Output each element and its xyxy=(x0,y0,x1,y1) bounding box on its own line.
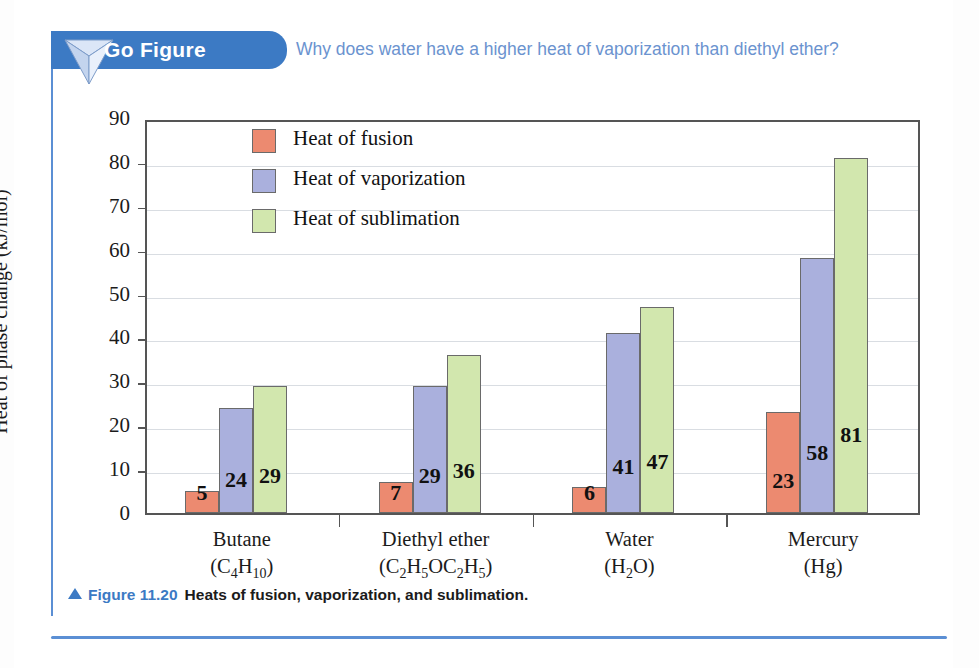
legend-label: Heat of fusion xyxy=(293,126,413,151)
bar-value-label: 36 xyxy=(448,458,480,484)
x-axis-category-name: Water xyxy=(533,526,727,553)
y-axis-tick xyxy=(138,252,145,254)
bar-value-label: 24 xyxy=(220,467,252,493)
legend-swatch xyxy=(252,129,276,153)
y-axis-tick xyxy=(138,471,145,473)
y-axis-tick xyxy=(138,339,145,341)
y-axis-tick-label: 30 xyxy=(86,369,130,394)
bar-value-label: 29 xyxy=(254,463,286,489)
y-axis-tick xyxy=(138,296,145,298)
legend-item[interactable]: Heat of sublimation xyxy=(252,208,460,236)
bar-value-label: 58 xyxy=(801,440,833,466)
bar: 7 xyxy=(379,482,413,513)
bar: 47 xyxy=(640,307,674,513)
go-figure-label: Go Figure xyxy=(104,36,254,64)
y-axis-tick-label: 90 xyxy=(86,106,130,131)
x-axis-category-label: Mercury(Hg) xyxy=(726,526,920,580)
y-axis-tick xyxy=(138,383,145,385)
bar: 41 xyxy=(606,333,640,513)
legend-label: Heat of sublimation xyxy=(293,206,460,231)
y-axis-tick-label: 60 xyxy=(86,238,130,263)
bar-value-label: 5 xyxy=(186,480,218,506)
y-axis-tick xyxy=(138,427,145,429)
figure-number: Figure 11.20 xyxy=(88,586,178,603)
bar: 29 xyxy=(413,386,447,513)
bar: 5 xyxy=(185,491,219,513)
y-axis-tick xyxy=(138,164,145,166)
bar-value-label: 6 xyxy=(573,480,605,506)
y-axis-tick xyxy=(138,208,145,210)
bar-value-label: 29 xyxy=(414,463,446,489)
y-axis-tick-label: 10 xyxy=(86,457,130,482)
bar: 36 xyxy=(447,355,481,513)
bar-value-label: 47 xyxy=(641,449,673,475)
legend-label: Heat of vaporization xyxy=(293,166,466,191)
x-axis-category-formula: (C4H10) xyxy=(145,553,339,587)
page-margin-right xyxy=(953,0,979,668)
bar-value-label: 81 xyxy=(835,422,867,448)
bar-value-label: 23 xyxy=(767,468,799,494)
x-axis-category-label: Butane(C4H10) xyxy=(145,526,339,587)
y-axis-tick-label: 80 xyxy=(86,150,130,175)
figure-caption: Figure 11.20Heats of fusion, vaporizatio… xyxy=(68,586,528,604)
y-axis-tick-label: 70 xyxy=(86,194,130,219)
triangle-up-icon xyxy=(68,588,82,599)
bar: 23 xyxy=(766,412,800,513)
bar: 29 xyxy=(253,386,287,513)
x-axis-category-formula: (H2O) xyxy=(533,553,727,587)
legend-swatch xyxy=(252,209,276,233)
legend-item[interactable]: Heat of vaporization xyxy=(252,168,466,196)
caption-text: Heats of fusion, vaporization, and subli… xyxy=(185,586,529,603)
bar: 6 xyxy=(572,487,606,513)
bottom-rule xyxy=(51,636,947,639)
figure-page: Go Figure Why does water have a higher h… xyxy=(0,0,979,668)
bar: 24 xyxy=(219,408,253,513)
bar: 81 xyxy=(834,158,868,514)
x-axis-category-formula: (Hg) xyxy=(726,553,920,580)
y-axis-tick-label: 50 xyxy=(86,282,130,307)
x-axis-category-name: Butane xyxy=(145,526,339,553)
bar: 58 xyxy=(800,258,834,513)
x-axis-category-name: Diethyl ether xyxy=(339,526,533,553)
gridline xyxy=(147,254,918,255)
x-axis-category-name: Mercury xyxy=(726,526,920,553)
legend-swatch xyxy=(252,169,276,193)
x-axis-category-label: Water(H2O) xyxy=(533,526,727,587)
gridline xyxy=(147,166,918,167)
y-axis-tick-label: 20 xyxy=(86,413,130,438)
y-axis-title: Heat of phase change (kJ/mol) xyxy=(0,102,12,522)
y-axis-tick-label: 0 xyxy=(86,501,130,526)
go-figure-question: Why does water have a higher heat of vap… xyxy=(296,36,896,62)
x-axis-category-label: Diethyl ether(C2H5OC2H5) xyxy=(339,526,533,587)
legend-item[interactable]: Heat of fusion xyxy=(252,128,413,156)
y-axis-tick-label: 40 xyxy=(86,325,130,350)
x-axis-category-formula: (C2H5OC2H5) xyxy=(339,553,533,587)
bar-value-label: 7 xyxy=(380,480,412,506)
y-axis-title-text: Heat of phase change (kJ/mol) xyxy=(0,189,11,433)
bar-value-label: 41 xyxy=(607,454,639,480)
